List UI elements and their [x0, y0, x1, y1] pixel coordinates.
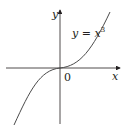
x-axis-label: x	[112, 70, 119, 83]
cubic-graph: y x 0 y = x3	[0, 0, 125, 132]
origin-label: 0	[64, 71, 71, 84]
y-axis-label: y	[51, 8, 59, 21]
curve-label: y = x3	[71, 26, 105, 40]
